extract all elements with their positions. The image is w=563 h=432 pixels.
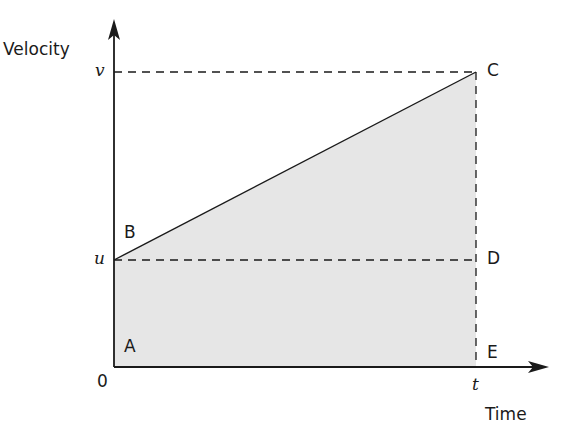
- y-axis-label: Velocity: [3, 41, 70, 58]
- point-label-e: E: [487, 344, 498, 361]
- point-label-a: A: [124, 338, 136, 355]
- t-tick-label: t: [472, 376, 479, 393]
- u-tick-label: u: [94, 250, 105, 267]
- point-label-c: C: [487, 62, 499, 79]
- origin-label: 0: [97, 373, 108, 390]
- shaded-area: [114, 72, 476, 367]
- v-tick-label: v: [95, 62, 105, 79]
- point-label-b: B: [124, 224, 136, 241]
- point-label-d: D: [487, 250, 500, 267]
- velocity-time-graph: [0, 0, 563, 432]
- x-axis-label: Time: [485, 406, 527, 423]
